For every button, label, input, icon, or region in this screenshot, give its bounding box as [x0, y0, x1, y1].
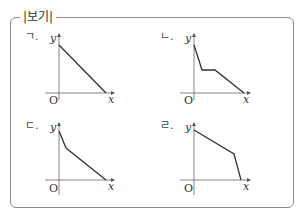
origin-label: O: [49, 182, 58, 195]
graph-giyeok: y O x: [45, 32, 115, 107]
origin-label: O: [49, 94, 58, 107]
x-axis-label: x: [108, 180, 115, 193]
y-axis-label: y: [184, 32, 192, 45]
graph-line: [59, 131, 106, 180]
graph-line: [194, 45, 244, 93]
graph-line: [59, 45, 106, 93]
origin-label: O: [184, 94, 193, 107]
graph-rieul: y O x: [180, 121, 250, 195]
graphs-canvas: y O x y O x y O x y O x: [0, 0, 306, 223]
x-axis-label: x: [243, 93, 250, 106]
graph-line: [194, 130, 241, 180]
x-axis-label: x: [243, 180, 250, 193]
y-axis-label: y: [49, 121, 57, 134]
origin-label: O: [184, 182, 193, 195]
graph-digeut: y O x: [45, 121, 115, 195]
y-axis-label: y: [184, 121, 192, 134]
y-axis-label: y: [49, 32, 57, 45]
x-axis-label: x: [108, 93, 115, 106]
graph-nieun: y O x: [180, 32, 250, 107]
